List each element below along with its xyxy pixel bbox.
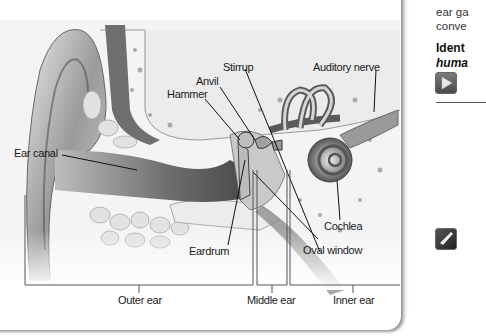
label-middle-ear: Middle ear	[247, 294, 295, 306]
label-outer-ear: Outer ear	[118, 294, 162, 306]
label-ear-canal: Ear canal	[14, 147, 58, 159]
question-heading-line-1: Ident	[436, 41, 465, 55]
highlighter-icon	[436, 229, 456, 249]
ear-illustration	[0, 0, 400, 330]
play-icon	[436, 73, 456, 93]
label-anvil: Anvil	[196, 75, 218, 87]
side-text-line-1: ear ga	[436, 6, 469, 18]
label-oval-window: Oval window	[303, 244, 362, 256]
play-button[interactable]	[435, 72, 457, 94]
question-heading-line-2: huma	[436, 56, 468, 70]
highlighter-button[interactable]	[435, 228, 457, 250]
side-panel: ear ga conve Ident huma	[424, 0, 486, 336]
label-stirrup: Stirrup	[223, 61, 253, 73]
divider	[436, 102, 486, 103]
label-hammer: Hammer	[167, 88, 207, 100]
label-inner-ear: Inner ear	[333, 294, 374, 306]
label-cochlea: Cochlea	[324, 220, 362, 232]
label-auditory-nerve: Auditory nerve	[313, 61, 380, 73]
label-eardrum: Eardrum	[189, 245, 229, 257]
side-text-line-2: conve	[436, 20, 467, 32]
diagram-panel: Ear canal Hammer Anvil Stirrup Auditory …	[0, 0, 401, 330]
